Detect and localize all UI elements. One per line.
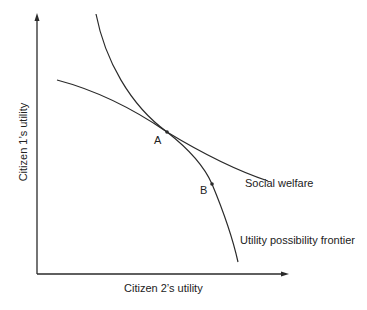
y-axis-arrow-icon: [35, 13, 40, 21]
utility-possibility-frontier-label: Utility possibility frontier: [240, 234, 355, 246]
x-axis-arrow-icon: [281, 272, 289, 277]
x-axis-label: Citizen 2’s utility: [124, 282, 203, 294]
point-b-label: B: [200, 184, 207, 196]
y-axis-label: Citizen 1’s utility: [17, 97, 29, 187]
social-welfare-curve: [57, 80, 268, 181]
diagram-canvas: [0, 0, 367, 310]
social-welfare-label: Social welfare: [245, 177, 313, 189]
utility-possibility-frontier-curve: [96, 14, 238, 262]
point-a-marker: [165, 130, 169, 134]
point-a-label: A: [154, 134, 161, 146]
point-b-marker: [210, 182, 214, 186]
